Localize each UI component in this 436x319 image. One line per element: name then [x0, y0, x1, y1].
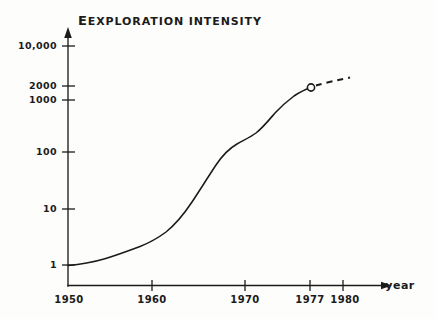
y-axis	[64, 27, 72, 286]
y-axis-arrowhead-icon	[64, 27, 72, 38]
x-tick-labels: 1950 1960 1970 1977 1980	[54, 294, 359, 305]
chart-figure: 10,000 2000 1000 100 10 1 1950 1960 1970…	[0, 0, 436, 319]
chart-title: EEXPLORATION INTENSITY	[78, 13, 262, 28]
chart-title-text: EEXPLORATION INTENSITY	[78, 13, 262, 28]
y-tick-label-10: 10	[43, 203, 57, 214]
y-tick-label-2000: 2000	[29, 80, 57, 91]
data-point-marker-1977	[307, 84, 314, 91]
y-tick-label-1000: 1000	[29, 94, 57, 105]
y-tick-label-1: 1	[50, 259, 57, 270]
projection-dashed-line	[316, 78, 350, 86]
x-tick-label-1980: 1980	[330, 294, 359, 305]
x-tick-label-1970: 1970	[230, 294, 259, 305]
title-word-exploration: EXPLORATION INTENSITY	[88, 15, 262, 28]
x-tick-label-1950: 1950	[54, 294, 83, 305]
y-tick-labels: 10,000 2000 1000 100 10 1	[18, 40, 57, 270]
exploration-intensity-line-chart: 10,000 2000 1000 100 10 1 1950 1960 1970…	[0, 0, 436, 319]
y-tick-label-10000: 10,000	[18, 40, 57, 51]
y-tick-label-100: 100	[36, 146, 57, 157]
x-tick-label-1960: 1960	[137, 294, 166, 305]
x-axis-name: year	[385, 279, 415, 292]
exploration-intensity-curve	[68, 88, 310, 266]
x-tick-label-1977: 1977	[295, 294, 324, 305]
